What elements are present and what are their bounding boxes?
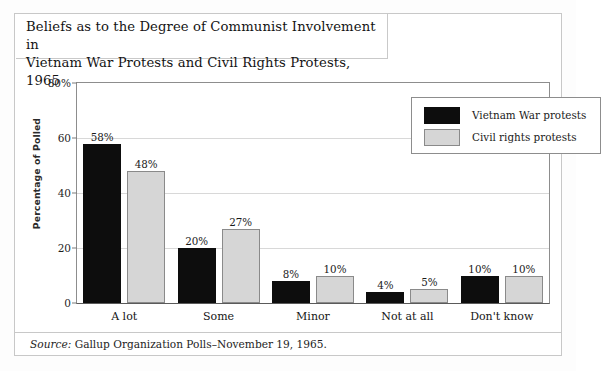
bar[interactable]: 48% — [127, 171, 165, 303]
bar-value-label: 4% — [377, 279, 393, 291]
bar[interactable]: 8% — [272, 281, 310, 303]
legend-swatch-civil-rights-protests — [424, 129, 460, 146]
source-divider — [14, 332, 562, 333]
bar-group: 20%27%Some — [171, 83, 265, 303]
legend-label-civil-rights-protests: Civil rights protests — [472, 131, 577, 143]
bar[interactable]: 58% — [83, 144, 121, 304]
source-note: Source: Gallup Organization Polls–Novemb… — [30, 338, 327, 350]
bar-value-label: 27% — [229, 216, 252, 228]
x-category-label: A lot — [111, 310, 137, 323]
plot-area: Percentage of Polled 020406080% 58%48%A … — [14, 60, 562, 332]
bar-value-label: 58% — [91, 131, 114, 143]
y-tick-label: 20 — [58, 242, 71, 254]
bar[interactable]: 10% — [316, 276, 354, 304]
bar-value-label: 10% — [324, 263, 347, 275]
x-category-label: Minor — [296, 310, 330, 323]
legend-label-vietnam-war-protests: Vietnam War protests — [472, 109, 586, 121]
bar-value-label: 5% — [421, 276, 437, 288]
legend-swatch-vietnam-war-protests — [424, 107, 460, 124]
y-tick-label: 80% — [48, 77, 71, 89]
source-label: Source: — [30, 338, 71, 350]
bar-group: 8%10%Minor — [266, 83, 360, 303]
x-category-label: Not at all — [381, 310, 433, 323]
bar-value-label: 10% — [512, 263, 535, 275]
y-tick-label: 0 — [64, 297, 71, 309]
x-category-label: Don't know — [470, 310, 533, 323]
bar-value-label: 8% — [283, 268, 299, 280]
legend-item: Civil rights protests — [424, 126, 600, 148]
y-tick-label: 40 — [58, 187, 71, 199]
bar[interactable]: 4% — [366, 292, 404, 303]
bar[interactable]: 10% — [505, 276, 543, 304]
source-text: Gallup Organization Polls–November 19, 1… — [71, 338, 327, 350]
bar-value-label: 10% — [468, 263, 491, 275]
legend-item: Vietnam War protests — [424, 104, 600, 126]
bar[interactable]: 5% — [410, 289, 448, 303]
bar[interactable]: 27% — [222, 229, 260, 303]
plot-box: 020406080% 58%48%A lot20%27%Some8%10%Min… — [76, 82, 550, 304]
bar-group: 58%48%A lot — [77, 83, 171, 303]
bar-value-label: 48% — [135, 158, 158, 170]
y-tick-label: 60 — [58, 132, 71, 144]
title-box: Beliefs as to the Degree of Communist In… — [16, 14, 388, 59]
bar[interactable]: 10% — [461, 276, 499, 304]
x-category-label: Some — [203, 310, 234, 323]
bar-value-label: 20% — [185, 235, 208, 247]
legend-box: Vietnam War protests Civil rights protes… — [411, 97, 601, 154]
y-axis-title: Percentage of Polled — [31, 109, 42, 239]
bar[interactable]: 20% — [178, 248, 216, 303]
